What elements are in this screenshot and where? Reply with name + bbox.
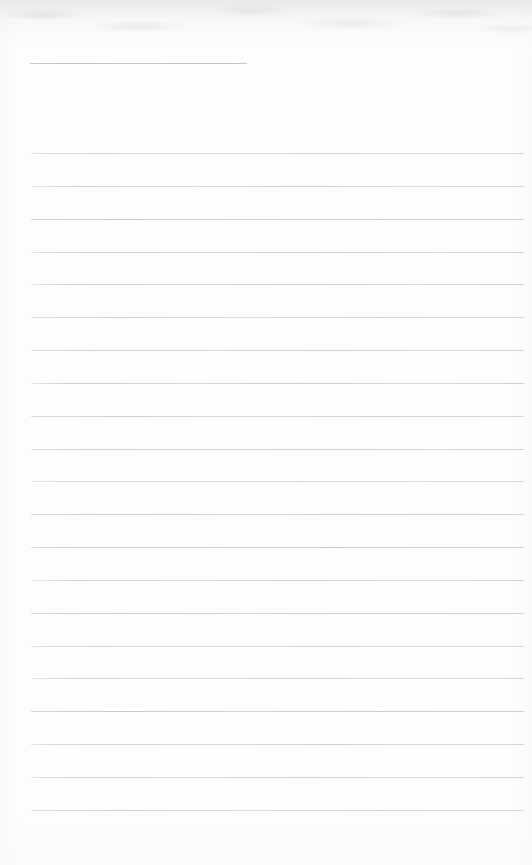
paper-top-edge-artifact — [0, 0, 532, 48]
scanned-page — [0, 0, 532, 865]
writing-area[interactable] — [31, 140, 524, 824]
title-rule — [30, 63, 247, 64]
